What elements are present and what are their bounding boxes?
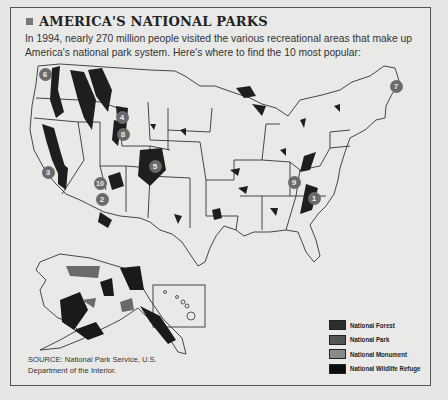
park-marker-1[interactable]: 1: [308, 192, 321, 205]
legend-item-national-forest: National Forest: [329, 318, 436, 332]
national-wildlife-refuge-swatch-icon: [329, 364, 346, 374]
alaska-parks: [60, 266, 176, 344]
park-marker-4[interactable]: 4: [116, 111, 129, 124]
park-marker-6[interactable]: 6: [39, 68, 52, 81]
legend-item-national-monument: National Monument: [329, 347, 436, 361]
national-monument-swatch-icon: [329, 349, 346, 359]
park-marker-10[interactable]: 10: [94, 177, 107, 190]
source-note: SOURCE: National Park Service, U.S. Depa…: [28, 354, 158, 376]
legend-label: National Forest: [350, 321, 395, 330]
park-marker-3[interactable]: 3: [42, 166, 55, 179]
national-park-swatch-icon: [329, 335, 346, 345]
legend-label: National Park: [350, 335, 389, 344]
park-marker-7[interactable]: 7: [390, 80, 403, 93]
legend-label: National Wildlife Refuge: [350, 364, 420, 373]
national-forest-swatch-icon: [329, 320, 346, 330]
alaska-outline: [36, 254, 186, 354]
park-marker-2[interactable]: 2: [96, 193, 109, 206]
legend-item-national-park: National Park: [329, 333, 436, 347]
park-marker-8[interactable]: 8: [117, 128, 130, 141]
legend-label: National Monument: [350, 350, 407, 359]
map-legend: National Forest National Park National M…: [329, 318, 436, 376]
park-marker-5[interactable]: 5: [149, 160, 162, 173]
legend-item-national-wildlife-refuge: National Wildlife Refuge: [329, 362, 436, 376]
park-marker-9[interactable]: 9: [288, 176, 301, 189]
